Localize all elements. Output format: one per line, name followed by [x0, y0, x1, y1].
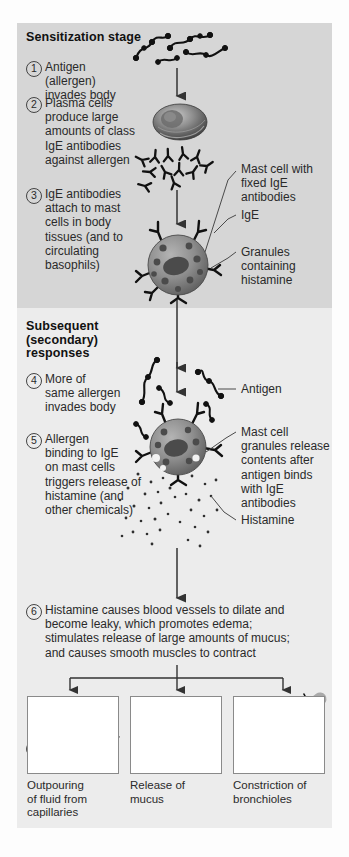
step-2-text: Plasma cells produce large amounts of cl…: [45, 96, 144, 167]
step-4: 4 More of same allergen invades body: [26, 372, 138, 415]
outcome-box-capillaries: [27, 696, 119, 774]
step-6-text: Histamine causes blood vessels to dilate…: [45, 603, 326, 660]
allergy-diagram: Sensitization stage 1 Antigen (allergen)…: [0, 0, 349, 857]
heading-sensitization-stage: Sensitization stage: [26, 31, 141, 45]
callout-granules-histamine: Granules containing histamine: [241, 245, 333, 288]
ige-antibody-cloud: [134, 146, 216, 191]
mast-cell-sensitized: [136, 221, 221, 303]
heading-subsequent-responses: Subsequent (secondary) responses: [26, 320, 99, 361]
step-5-number: 5: [26, 433, 42, 449]
step-3-text: IgE antibodies attach to mast cells in b…: [45, 187, 144, 272]
callout-leaders-stage1: [205, 171, 236, 268]
step-3: 3 IgE antibodies attach to mast cells in…: [26, 187, 144, 272]
step-2-number: 2: [26, 97, 42, 113]
outcome-box-bronchioles: [233, 696, 325, 774]
step-4-number: 4: [26, 373, 42, 389]
step-6-number: 6: [26, 604, 42, 620]
callout-mast-cell-fixed-ige: Mast cell with fixed IgE antibodies: [241, 162, 333, 205]
callout-mast-cell-release: Mast cell granules release contents afte…: [241, 425, 336, 510]
antigen-molecules-top: [133, 32, 227, 64]
step-3-number: 3: [26, 188, 42, 204]
step-4-text: More of same allergen invades body: [45, 372, 138, 415]
outcome-caption-mucus: Release of mucus: [130, 779, 226, 806]
step-5-text: Allergen binding to IgE on mast cells tr…: [45, 432, 150, 517]
callout-ige: IgE: [241, 208, 301, 222]
step-2: 2 Plasma cells produce large amounts of …: [26, 96, 144, 167]
callout-histamine: Histamine: [241, 513, 331, 527]
step-1-number: 1: [26, 61, 42, 77]
outcome-box-mucus: [130, 696, 222, 774]
step-5: 5 Allergen binding to IgE on mast cells …: [26, 432, 150, 517]
plasma-cell: [153, 104, 207, 140]
callout-antigen: Antigen: [241, 382, 321, 396]
step-6: 6 Histamine causes blood vessels to dila…: [26, 603, 326, 660]
outcome-caption-bronchioles: Constriction of bronchioles: [233, 779, 333, 806]
outcome-caption-capillaries: Outpouring of fluid from capillaries: [27, 779, 123, 820]
